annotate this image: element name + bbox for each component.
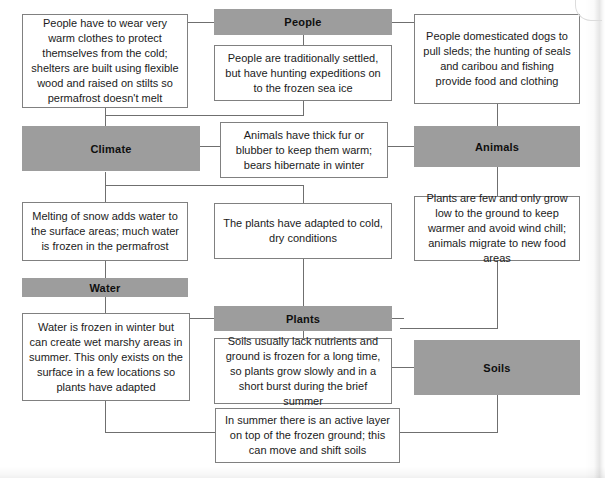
node-header-water[interactable]: Water — [22, 278, 188, 297]
node-header-climate[interactable]: Climate — [22, 126, 200, 171]
connector-clothing-down — [105, 108, 106, 126]
node-header-plants-label: Plants — [286, 313, 320, 325]
node-desc-people-settlement[interactable]: People are traditionally settled, but ha… — [214, 45, 392, 101]
node-desc-animals-fur[interactable]: Animals have thick fur or blubber to kee… — [220, 122, 388, 178]
node-desc-soils-nutrients-text: Soils usually lack nutrients and ground … — [221, 334, 385, 409]
connector-people-to-clothing — [188, 22, 214, 23]
node-desc-soils-active-layer[interactable]: In summer there is an active layer on to… — [215, 408, 400, 463]
node-header-soils-label: Soils — [483, 362, 510, 374]
page-edge-shadow — [585, 0, 605, 478]
node-desc-people-dogs[interactable]: People domesticated dogs to pull sleds; … — [414, 14, 580, 104]
node-header-people-label: People — [284, 16, 321, 28]
connector-plants-right — [392, 318, 404, 319]
node-desc-soils-nutrients[interactable]: Soils usually lack nutrients and ground … — [214, 338, 392, 404]
connector-animalsfur-to-animals — [388, 146, 414, 147]
connector-people-down — [303, 35, 304, 45]
connector-dogs-down — [497, 104, 498, 126]
connector-settlement-to-climate — [105, 115, 304, 116]
node-header-animals[interactable]: Animals — [414, 126, 580, 167]
node-header-animals-label: Animals — [475, 141, 519, 153]
connector-climate-to-animalsfur — [200, 146, 220, 147]
node-desc-plants-low[interactable]: Plants are few and only grow low to the … — [414, 196, 580, 261]
connector-waterfrozen-down — [105, 401, 106, 432]
connector-plantslow-down — [497, 261, 498, 328]
node-header-soils[interactable]: Soils — [414, 340, 580, 395]
connector-soils-down — [497, 395, 498, 432]
connector-waterfrozen-to-plants — [190, 318, 214, 319]
connector-settlement-down — [303, 101, 304, 115]
connector-waterfrozen-to-activelayer — [105, 432, 215, 433]
node-desc-soils-active-layer-text: In summer there is an active layer on to… — [222, 413, 393, 458]
node-desc-water-melting[interactable]: Melting of snow adds water to the surfac… — [22, 202, 188, 261]
connector-soils-to-activelayer — [400, 432, 498, 433]
node-desc-plants-adapted-text: The plants have adapted to cold, dry con… — [221, 216, 385, 246]
connector-climate-to-plantsadapted — [105, 185, 304, 186]
connector-climate-down — [105, 172, 106, 202]
node-desc-plants-adapted[interactable]: The plants have adapted to cold, dry con… — [214, 203, 392, 259]
connector-people-to-dogs — [392, 22, 414, 23]
node-desc-people-dogs-text: People domesticated dogs to pull sleds; … — [421, 29, 573, 89]
node-desc-people-clothing[interactable]: People have to wear very warm clothes to… — [22, 14, 188, 108]
node-desc-plants-low-text: Plants are few and only grow low to the … — [421, 191, 573, 266]
page-edge-bottom-shadow — [0, 466, 605, 478]
node-header-water-label: Water — [89, 282, 120, 294]
node-desc-people-settlement-text: People are traditionally settled, but ha… — [221, 51, 385, 96]
connector-water-down — [105, 297, 106, 313]
node-desc-people-clothing-text: People have to wear very warm clothes to… — [29, 16, 181, 106]
node-header-climate-label: Climate — [90, 143, 131, 155]
diagram-canvas: People Climate Animals Water Plants Soil… — [0, 0, 605, 478]
connector-plantslow-to-soils — [400, 328, 498, 329]
connector-soilsnutrients-to-soils — [392, 367, 414, 368]
connector-watermelting-down — [105, 261, 106, 278]
node-desc-water-frozen-text: Water is frozen in winter but can create… — [29, 320, 183, 395]
connector-plantsadapted-stub — [303, 185, 304, 203]
node-desc-water-frozen[interactable]: Water is frozen in winter but can create… — [22, 313, 190, 401]
node-header-people[interactable]: People — [214, 9, 392, 35]
node-desc-water-melting-text: Melting of snow adds water to the surfac… — [29, 209, 181, 254]
connector-plantsadapted-down — [303, 259, 304, 306]
node-header-plants[interactable]: Plants — [214, 306, 392, 331]
node-desc-animals-fur-text: Animals have thick fur or blubber to kee… — [227, 128, 381, 173]
